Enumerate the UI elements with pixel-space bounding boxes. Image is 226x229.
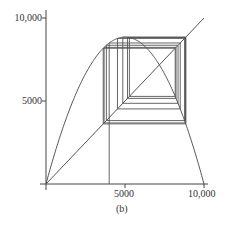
y-tick-label-10000: 10,000	[15, 13, 43, 23]
figure-caption: (b)	[116, 203, 128, 214]
x-tick-label-10000: 10,000	[188, 189, 216, 199]
y-tick-label-5000: 5000	[22, 96, 42, 106]
x-tick-label-5000: 5000	[114, 189, 134, 199]
